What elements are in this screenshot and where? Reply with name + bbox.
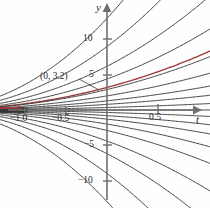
annotation-leader-line [79,79,99,90]
y-tick-label--10: −10 [78,176,93,186]
solution-curve [0,110,210,208]
solution-curve-family-plot: y t −1.0 −0.5 0.5 10 5 −5 −10 (0, 3.2) [0,0,210,208]
curve-family [0,0,210,208]
y-tick-label-10: 10 [83,34,93,44]
point-annotation-label: (0, 3.2) [40,72,68,82]
solution-curve [0,0,207,110]
solution-curve [0,110,193,208]
y-tick-label--5: −5 [84,140,94,150]
solution-curve [0,54,210,110]
y-axis-label: y [96,2,101,13]
x-tick-label--0.5: −0.5 [52,114,69,124]
t-axis-label: t [196,114,199,125]
x-tick-label-0.5: 0.5 [149,113,161,123]
y-axis-arrowhead [103,3,112,12]
solution-curve [0,0,210,110]
plot-canvas [0,0,210,208]
curve-bundle-highlight [0,108,21,109]
solution-curve [0,110,210,191]
x-tick-label--1.0: −1.0 [10,114,27,124]
solution-curve [0,29,210,110]
solution-curve [0,110,210,166]
y-tick-label-5: 5 [89,70,94,80]
solution-curve [0,110,149,208]
